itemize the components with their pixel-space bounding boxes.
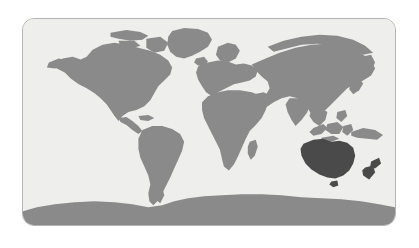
world-map-graphic (23, 19, 395, 225)
world-map-panel (22, 18, 396, 226)
figure-root (0, 0, 419, 248)
